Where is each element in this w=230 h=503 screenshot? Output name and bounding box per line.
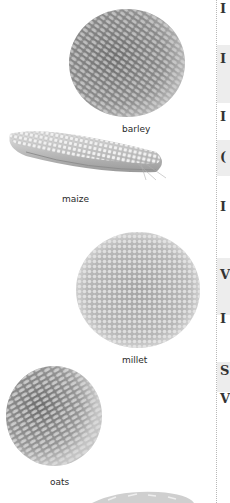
grain-label-millet: millet xyxy=(122,355,147,365)
table-row-initial: S xyxy=(220,364,229,377)
grain-illustrations: barley maize millet xyxy=(0,0,216,503)
table-row-initial: ( xyxy=(220,150,226,163)
maize-image xyxy=(6,122,170,182)
table-row-initial: I xyxy=(220,52,226,65)
oats-image xyxy=(2,364,106,470)
millet-image xyxy=(72,224,206,354)
table-row-initial: I xyxy=(220,200,226,213)
grain-table-partial: I I I ( I V I S V xyxy=(217,0,230,503)
table-row-initial: V xyxy=(220,268,230,281)
barley-image xyxy=(64,6,190,124)
rice-image xyxy=(88,488,198,503)
table-row-initial: I xyxy=(220,110,226,123)
table-row-initial: I xyxy=(220,2,226,15)
table-row-initial: V xyxy=(220,392,230,405)
grain-label-oats: oats xyxy=(50,477,69,487)
table-row-initial: I xyxy=(220,312,226,325)
grain-label-maize: maize xyxy=(62,194,89,204)
